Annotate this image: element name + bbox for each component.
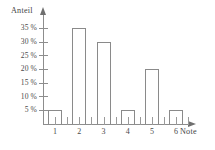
x-tick-label: 2	[72, 128, 86, 136]
y-tick	[39, 42, 48, 43]
y-tick-label: 20 %	[21, 65, 37, 73]
y-tick	[39, 55, 48, 56]
x-axis-arrow-icon	[188, 121, 196, 127]
bar	[72, 28, 86, 124]
y-tick	[39, 96, 48, 97]
x-tick	[67, 117, 68, 125]
bar-chart-figure: Anteil Note 5 %10 %15 %20 %25 %30 %35 % …	[0, 0, 215, 150]
y-tick-label: 5 %	[25, 106, 37, 114]
y-tick-label: 25 %	[21, 52, 37, 60]
x-tick-label: 6	[169, 128, 183, 136]
x-tick-label: 4	[121, 128, 135, 136]
bar	[121, 110, 135, 124]
x-tick	[140, 117, 141, 125]
y-axis-title: Anteil	[11, 7, 33, 15]
x-tick	[164, 117, 165, 125]
plot-area: Anteil Note 5 %10 %15 %20 %25 %30 %35 % …	[0, 0, 215, 150]
y-tick	[39, 83, 48, 84]
x-tick	[91, 117, 92, 125]
x-tick-label: 3	[97, 128, 111, 136]
x-tick-label: 5	[145, 128, 159, 136]
y-tick	[39, 28, 48, 29]
bar	[48, 110, 62, 124]
x-tick	[188, 117, 189, 125]
y-tick	[39, 110, 48, 111]
y-axis-arrow-icon	[40, 7, 46, 15]
bar	[169, 110, 183, 124]
bar	[145, 69, 159, 124]
x-tick-label: 1	[48, 128, 62, 136]
y-tick-label: 35 %	[21, 24, 37, 32]
x-axis-line	[43, 124, 191, 125]
x-tick	[116, 117, 117, 125]
y-tick-label: 30 %	[21, 38, 37, 46]
y-tick-label: 10 %	[21, 93, 37, 101]
y-tick	[39, 69, 48, 70]
y-tick-label: 15 %	[21, 79, 37, 87]
bar	[97, 42, 111, 124]
